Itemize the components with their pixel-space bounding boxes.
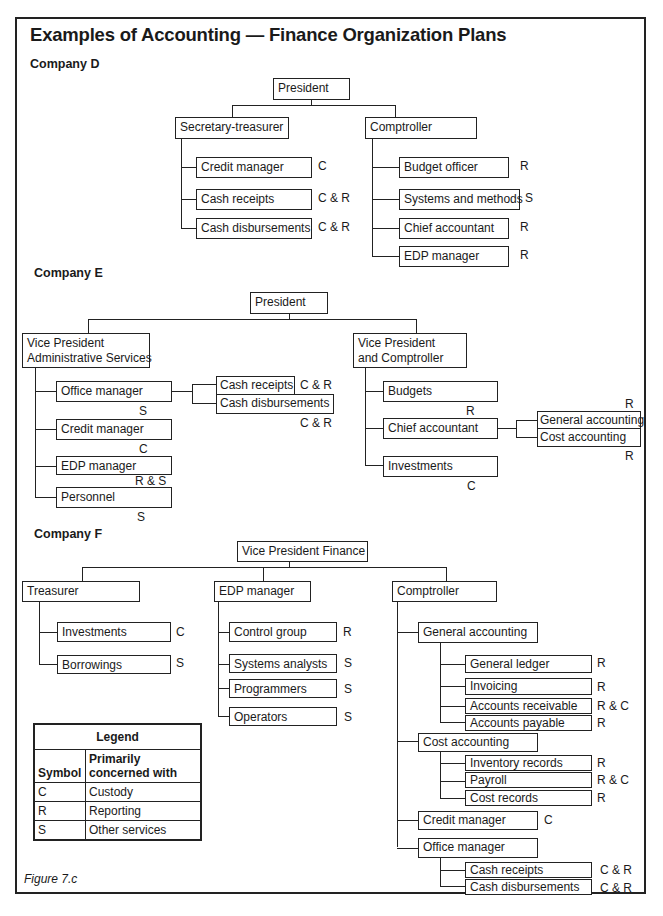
e-chief-sub-cost-accounting: Cost accounting xyxy=(537,428,641,447)
connector xyxy=(35,391,56,392)
connector xyxy=(88,319,89,334)
connector xyxy=(365,391,384,392)
connector xyxy=(372,167,400,168)
connector xyxy=(498,428,516,429)
connector xyxy=(440,886,465,887)
company-f-label: Company F xyxy=(34,527,102,541)
connector xyxy=(172,391,192,392)
connector xyxy=(365,465,384,466)
connector xyxy=(440,781,465,782)
connector xyxy=(201,403,216,404)
connector xyxy=(35,429,56,430)
d-unit-credit-manager: Credit manager xyxy=(196,157,312,178)
f-cost-accounting: Cost accounting xyxy=(418,733,538,752)
connector xyxy=(218,632,229,633)
f-treasurer-investments: Investments xyxy=(57,622,171,642)
responsibility-code: S xyxy=(344,682,352,696)
connector xyxy=(263,567,264,582)
responsibility-code: C & R xyxy=(318,220,350,234)
responsibility-code: C xyxy=(467,479,476,493)
connector xyxy=(39,664,57,665)
responsibility-code: R xyxy=(597,756,606,770)
connector xyxy=(440,722,465,723)
connector xyxy=(440,686,465,687)
responsibility-code: C xyxy=(318,159,327,173)
f-accounts-payable: Accounts payable xyxy=(465,715,592,731)
d-unit-cash-receipts: Cash receipts xyxy=(196,189,312,210)
d-unit-edp-manager: EDP manager xyxy=(399,246,509,267)
connector xyxy=(440,664,465,665)
connector xyxy=(397,602,398,847)
responsibility-code: R & C xyxy=(597,773,629,787)
connector xyxy=(365,428,384,429)
connector xyxy=(181,199,197,200)
connector xyxy=(39,602,40,664)
legend-meaning: Reporting xyxy=(86,802,202,821)
connector xyxy=(372,228,400,229)
legend-symbol: S xyxy=(34,821,86,841)
responsibility-code: R xyxy=(520,248,529,262)
connector xyxy=(397,848,418,849)
company-e-label: Company E xyxy=(34,266,103,280)
connector xyxy=(82,567,83,582)
company-d-label: Company D xyxy=(30,57,99,71)
f-treasurer-borrowings: Borrowings xyxy=(57,655,171,674)
connector xyxy=(440,752,441,798)
d-unit-budget-officer: Budget officer xyxy=(399,157,509,178)
responsibility-code: C & R xyxy=(600,881,632,895)
legend-meaning: Custody xyxy=(86,783,202,802)
connector xyxy=(416,319,417,334)
legend-row: CCustody xyxy=(34,783,201,802)
f-accounts-receivable: Accounts receivable xyxy=(465,698,592,714)
responsibility-code: S xyxy=(344,710,352,724)
responsibility-code: C xyxy=(176,625,185,639)
connector xyxy=(192,384,201,385)
connector xyxy=(397,632,418,633)
e-chief-sub-general-accounting: General accounting xyxy=(537,411,641,429)
f-vp-finance: Vice President Finance xyxy=(237,541,368,562)
page-title: Examples of Accounting — Finance Organiz… xyxy=(30,24,506,46)
e-vp-admin-line1: Vice President xyxy=(27,336,145,351)
connector xyxy=(516,437,537,438)
responsibility-code: R xyxy=(625,397,634,411)
connector xyxy=(446,567,447,582)
legend-symbol: C xyxy=(34,783,86,802)
connector xyxy=(516,420,537,421)
connector xyxy=(440,643,441,722)
f-general-ledger: General ledger xyxy=(465,655,592,673)
f-cash-receipts: Cash receipts xyxy=(465,862,592,878)
responsibility-code: R xyxy=(597,716,606,730)
responsibility-code: R xyxy=(520,159,529,173)
e-vp-and-comptroller: Vice President and Comptroller xyxy=(353,333,467,368)
legend-col-meaning-line2: concerned with xyxy=(89,766,197,780)
connector xyxy=(397,820,418,821)
f-payroll: Payroll xyxy=(465,772,592,788)
e-unit-investments: Investments xyxy=(383,456,498,477)
connector xyxy=(82,567,446,568)
f-edp-manager: EDP manager xyxy=(214,581,311,602)
responsibility-code: R xyxy=(625,449,634,463)
legend-col-symbol: Symbol xyxy=(34,750,86,783)
legend-col-meaning-line1: Primarily xyxy=(89,752,197,766)
legend-col-meaning: Primarilyconcerned with xyxy=(86,750,202,783)
connector xyxy=(440,870,465,871)
responsibility-code: S xyxy=(137,510,145,524)
f-invoicing: Invoicing xyxy=(465,678,592,695)
responsibility-code: S xyxy=(525,191,533,205)
connector xyxy=(192,384,193,403)
d-president: President xyxy=(273,78,350,100)
connector xyxy=(35,368,36,497)
figure-label: Figure 7.c xyxy=(24,872,77,886)
f-cost-records: Cost records xyxy=(465,790,592,806)
legend-row: SOther services xyxy=(34,821,201,841)
connector xyxy=(192,403,201,404)
f-treasurer: Treasurer xyxy=(22,581,140,602)
responsibility-code: R xyxy=(466,404,475,418)
connector xyxy=(181,139,182,228)
connector xyxy=(218,664,229,665)
f-credit-manager: Credit manager xyxy=(418,811,538,830)
legend-row: RReporting xyxy=(34,802,201,821)
responsibility-code: C & R xyxy=(318,191,350,205)
d-unit-cash-disbursements: Cash disbursements xyxy=(196,218,312,239)
f-inventory-records: Inventory records xyxy=(465,755,592,771)
